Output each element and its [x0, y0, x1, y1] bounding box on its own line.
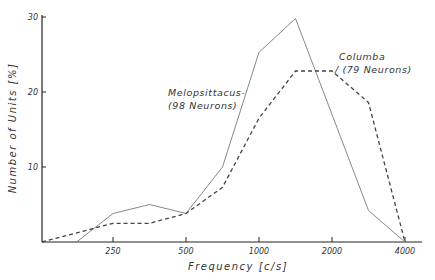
annotation-columba-count: / (79 Neurons) [334, 64, 412, 75]
y-tick-label: 20 [28, 88, 38, 97]
annotation-melopsittacus-count: (98 Neurons) [168, 100, 237, 111]
axes [42, 15, 422, 242]
x-tick-label: 500 [178, 247, 193, 256]
annotation-melopsittacus-name: Melopsittacus- [168, 87, 245, 98]
x-tick-label: 2000 [322, 247, 342, 256]
x-tick-label: 1000 [249, 247, 269, 256]
annotations: Melopsittacus-(98 Neurons)Columba/ (79 N… [168, 51, 412, 111]
y-axis-label: Number of Units [%] [7, 63, 18, 194]
frequency-response-chart: 102030250500100020004000 Melopsittacus-(… [0, 0, 435, 280]
annotation-columba-name: Columba [339, 51, 385, 62]
x-tick-label: 250 [105, 247, 120, 256]
x-tick-label: 4000 [395, 247, 415, 256]
y-tick-label: 30 [28, 13, 38, 22]
y-tick-label: 10 [28, 163, 38, 172]
x-axis-label: Frequency [c/s] [188, 261, 288, 272]
ticks: 102030250500100020004000 [28, 13, 415, 256]
